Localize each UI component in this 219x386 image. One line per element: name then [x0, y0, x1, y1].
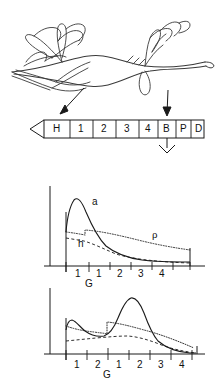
shoot-apex-line-drawing: [12, 21, 214, 95]
segment-cell-D[interactable]: D: [195, 124, 202, 134]
segment-cell-B[interactable]: B: [163, 124, 170, 134]
bottom-plot-xlabel-G: G: [103, 369, 111, 380]
bottom-plot-xtick-5: 4: [179, 359, 185, 370]
segment-cell-P[interactable]: P: [180, 124, 187, 134]
bottom-plot-xtick-0: 1: [74, 359, 80, 370]
top-plot-ticks: [66, 262, 190, 272]
top-plot-xtick-1: 1: [96, 268, 102, 279]
top-plot-xtick-4: 4: [159, 268, 165, 279]
top-plot-xlabel-G: G: [85, 278, 93, 289]
annotation-arrows: [60, 88, 171, 116]
figure-root: a h ρ 1 1 2 3 4 G 1 2 1 2: [0, 0, 219, 386]
arrow-to-H: [60, 88, 84, 114]
bottom-plot-xtick-3: 2: [137, 359, 143, 370]
segment-bar-left-cap: [30, 120, 44, 138]
bottom-plot-xtick-1: 2: [95, 359, 101, 370]
segment-stem-marker: [159, 138, 175, 153]
segment-cell-4[interactable]: 4: [145, 124, 151, 134]
top-plot-label-rho: ρ: [152, 228, 158, 240]
bottom-plot-series-rho: [66, 322, 194, 348]
segment-cell-H[interactable]: H: [53, 124, 60, 134]
top-plot-xtick-3: 3: [138, 268, 144, 279]
top-plot-label-h: h: [78, 238, 84, 249]
top-plot-series-rho: [66, 230, 190, 250]
bottom-plot: 1 2 1 2 3 4 G: [44, 288, 205, 380]
bottom-plot-series-a: [66, 298, 196, 353]
top-plot-xtick-0: 1: [75, 268, 81, 279]
bottom-plot-xtick-2: 1: [116, 359, 122, 370]
top-plot: a h ρ 1 1 2 3 4 G: [44, 186, 205, 289]
bottom-plot-xtick-4: 3: [158, 359, 164, 370]
figure-canvas: a h ρ 1 1 2 3 4 G 1 2 1 2: [0, 0, 219, 386]
top-plot-series-h: [66, 238, 190, 263]
segment-cell-1[interactable]: 1: [78, 124, 84, 134]
top-plot-label-a: a: [92, 196, 98, 207]
arrow-to-B: [163, 90, 171, 116]
segment-cell-3[interactable]: 3: [124, 124, 130, 134]
top-plot-xtick-2: 2: [117, 268, 123, 279]
segment-cell-2[interactable]: 2: [101, 124, 107, 134]
